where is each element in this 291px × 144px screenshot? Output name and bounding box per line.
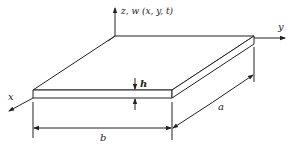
thickness-label: h bbox=[140, 78, 147, 89]
a-dimension-lower bbox=[173, 102, 213, 128]
a-dimension-upper bbox=[213, 75, 253, 102]
length-label: a bbox=[218, 101, 224, 112]
x-axis-label: x bbox=[8, 91, 14, 102]
plate-front-face bbox=[33, 90, 172, 98]
plate-drawing: z, w (x, y, t) y x h b a bbox=[0, 0, 291, 144]
y-axis-label: y bbox=[277, 21, 284, 32]
width-label: b bbox=[100, 132, 106, 143]
plate-diagram: z, w (x, y, t) y x h b a bbox=[0, 0, 291, 144]
z-axis-label: z, w (x, y, t) bbox=[120, 6, 174, 16]
